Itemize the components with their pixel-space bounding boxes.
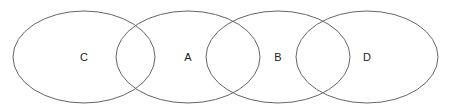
ellipse-diagram: CABD	[0, 0, 452, 110]
ellipse-label-b: B	[274, 51, 281, 63]
ellipse-label-d: D	[363, 51, 371, 63]
diagram-canvas: CABD	[0, 0, 452, 110]
ellipse-label-a: A	[184, 51, 192, 63]
ellipse-label-c: C	[80, 51, 88, 63]
